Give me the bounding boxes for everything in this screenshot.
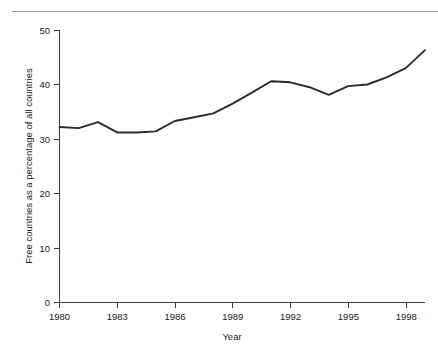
data-series-line	[60, 50, 426, 132]
line-chart: 50 40 30 20 10 0 1980 1983 1986 1989 199…	[0, 0, 438, 357]
x-tick-label-1992: 1992	[280, 311, 301, 322]
y-tick-label-20: 20	[39, 188, 50, 199]
x-tick-label-1998: 1998	[396, 311, 417, 322]
y-axis-title: Free countries as a percentage of all co…	[23, 68, 34, 264]
y-tick-label-50: 50	[39, 25, 50, 36]
x-axis-ticks	[60, 303, 407, 309]
x-axis-tick-labels: 1980 1983 1986 1989 1992 1995 1998	[49, 311, 417, 322]
chart-figure: 50 40 30 20 10 0 1980 1983 1986 1989 199…	[0, 0, 438, 357]
y-tick-label-0: 0	[45, 297, 50, 308]
axes-group	[60, 30, 426, 303]
y-tick-label-10: 10	[39, 243, 50, 254]
x-tick-label-1980: 1980	[49, 311, 70, 322]
y-tick-label-30: 30	[39, 134, 50, 145]
y-axis-ticks	[54, 31, 60, 303]
x-axis-title: Year	[222, 331, 241, 342]
y-axis-tick-labels: 50 40 30 20 10 0	[39, 25, 50, 308]
x-tick-label-1995: 1995	[338, 311, 359, 322]
y-tick-label-40: 40	[39, 79, 50, 90]
x-tick-label-1989: 1989	[222, 311, 243, 322]
x-tick-label-1983: 1983	[107, 311, 128, 322]
x-tick-label-1986: 1986	[165, 311, 186, 322]
